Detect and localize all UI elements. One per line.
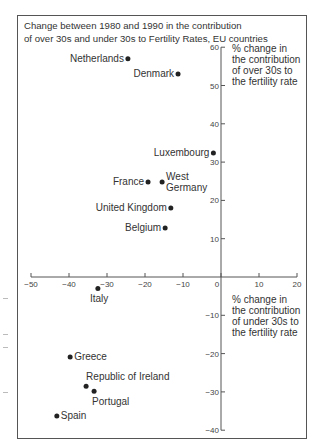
data-point — [163, 225, 168, 230]
data-point — [146, 180, 151, 185]
x-tick-label: −30 — [100, 280, 114, 289]
point-label: Belgium — [125, 222, 161, 233]
data-point — [160, 180, 165, 185]
point-label: Germany — [166, 182, 207, 193]
data-point — [54, 414, 59, 419]
y-tick-label: 60 — [210, 43, 219, 52]
y-tick-label: 10 — [210, 235, 219, 244]
scatter-plot: −50−40−30−20−1001020605040302010−10−20−3… — [0, 0, 322, 447]
point-label: Portugal — [92, 396, 129, 407]
point-label: West — [166, 171, 189, 182]
data-point — [95, 286, 100, 291]
data-point — [211, 150, 216, 155]
point-label: Republic of Ireland — [86, 371, 169, 382]
point-label: Netherlands — [70, 53, 124, 64]
data-point — [84, 384, 89, 389]
y-tick-label: −30 — [205, 388, 219, 397]
point-label: Greece — [74, 351, 107, 362]
data-point — [176, 72, 181, 77]
x-tick-label: 0 — [215, 280, 220, 289]
y-tick-label: 40 — [210, 120, 219, 129]
data-point — [125, 56, 130, 61]
y-tick-label: −20 — [205, 350, 219, 359]
y-tick-label: 30 — [210, 158, 219, 167]
point-label: Spain — [61, 410, 87, 421]
x-tick-label: −40 — [62, 280, 76, 289]
data-point — [92, 389, 97, 394]
x-tick-label: −50 — [24, 280, 38, 289]
point-label: Luxembourg — [154, 147, 210, 158]
x-tick-label: 10 — [255, 280, 264, 289]
data-point — [68, 355, 73, 360]
point-label: France — [113, 176, 145, 187]
y-tick-label: −10 — [205, 311, 219, 320]
point-label: Italy — [90, 293, 108, 304]
y-tick-label: 20 — [210, 196, 219, 205]
point-label: Denmark — [133, 68, 175, 79]
x-tick-label: −20 — [138, 280, 152, 289]
data-point — [168, 206, 173, 211]
y-tick-label: −40 — [205, 426, 219, 435]
y-tick-label: 50 — [210, 82, 219, 91]
point-label: United Kingdom — [96, 202, 167, 213]
x-tick-label: −10 — [176, 280, 190, 289]
x-tick-label: 20 — [293, 280, 302, 289]
